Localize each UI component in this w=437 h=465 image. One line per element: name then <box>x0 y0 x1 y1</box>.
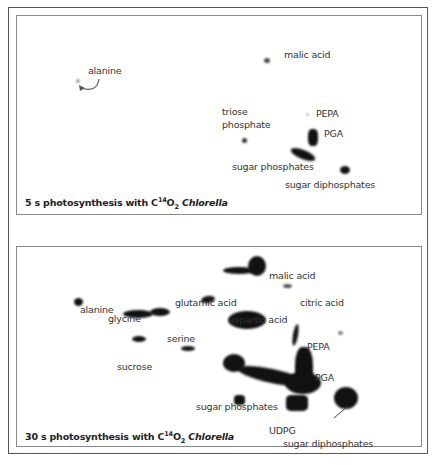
chromatogram-30s-panel: malic acid citric acid alanine glutamic … <box>16 246 422 447</box>
label-serine: serine <box>167 333 195 344</box>
label-sucrose: sucrose <box>117 361 152 372</box>
label-sugar-phosphates: sugar phosphates <box>196 401 278 412</box>
label-sugar-diphosphates: sugar diphosphates <box>285 179 375 190</box>
label-malic-acid: malic acid <box>284 49 330 60</box>
caption-5s: 5 s photosynthesis with C14O2 Chlorella <box>25 196 228 211</box>
label-citric-acid: citric acid <box>300 297 344 308</box>
label-glycine: glycine <box>108 313 141 324</box>
label-sugar-diphosphates: sugar diphosphates <box>283 438 373 449</box>
caption-30s: 30 s photosynthesis with C14O2 Chlorella <box>25 430 234 445</box>
label-pga: PGA <box>315 372 334 383</box>
label-triose-phosphate-line1: triose <box>222 106 248 117</box>
chromatogram-5s-panel: alanine malic acid triose phosphate PEPA… <box>16 15 422 215</box>
label-malic-acid: malic acid <box>269 270 315 281</box>
label-pepa: PEPA <box>316 108 339 119</box>
label-glutamic-acid: glutamic acid <box>175 297 237 308</box>
label-udpg: UDPG <box>269 425 296 436</box>
sugar-diphosphates-leader-line <box>17 247 423 448</box>
label-sugar-phosphates: sugar phosphates <box>232 161 314 172</box>
label-aspartic-acid: aspartic acid <box>229 314 287 325</box>
label-pepa: PEPA <box>307 341 330 352</box>
label-alanine: alanine <box>88 65 121 76</box>
label-triose-phosphate-line2: phosphate <box>222 119 270 130</box>
label-pga: PGA <box>324 128 343 139</box>
